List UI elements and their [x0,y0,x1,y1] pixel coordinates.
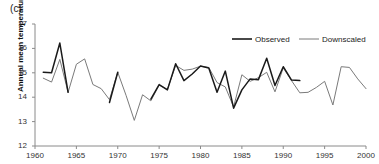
plot-area [0,0,379,164]
x-tick-label: 1975 [144,151,174,160]
x-tick-label: 1965 [61,151,91,160]
y-tick-label: 16 [13,43,27,52]
legend-label-downscaled: Downscaled [322,35,366,44]
axis-lines [35,24,366,146]
x-tick-label: 1980 [186,151,216,160]
x-tick-label: 1990 [268,151,298,160]
x-tick-label: 1995 [310,151,340,160]
series-line-downscaled [43,59,366,120]
x-tick-label: 1970 [103,151,133,160]
y-tick-label: 14 [13,92,27,101]
x-tick-label: 1960 [20,151,50,160]
y-tick-label: 13 [13,117,27,126]
chart-figure: (c) Annual mean temperature (°C) Observe… [0,0,379,164]
y-tick-label: 12 [13,141,27,150]
x-tick-label: 1985 [227,151,257,160]
legend-label-observed: Observed [255,35,290,44]
x-tick-label: 2000 [351,151,379,160]
series-line-observed [109,72,117,102]
series-line-observed [43,43,68,92]
y-tick-label: 15 [13,68,27,77]
data-series-group [43,43,366,120]
y-tick-label: 17 [13,19,27,28]
